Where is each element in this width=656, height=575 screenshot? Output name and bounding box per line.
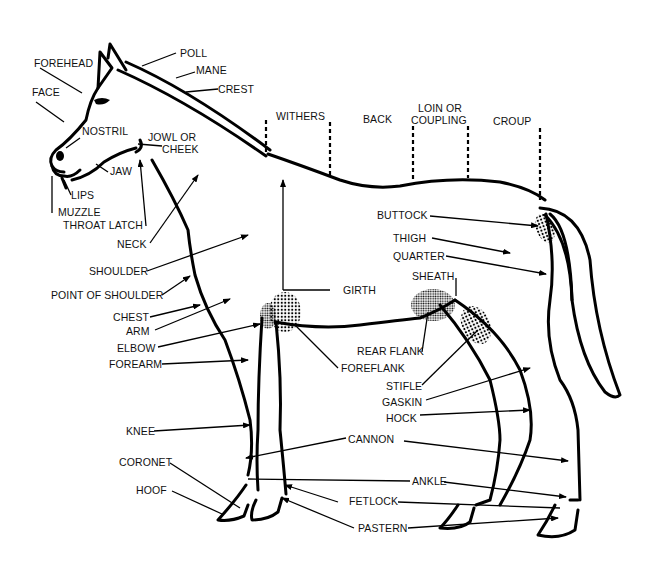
label-back: BACK — [363, 113, 392, 125]
label-crest: CREST — [218, 83, 255, 95]
label-buttock: BUTTOCK — [377, 209, 428, 221]
label-point-of-shoulder: POINT OF SHOULDER — [51, 289, 164, 301]
label-jowl-line1: JOWL OR — [148, 131, 196, 143]
label-loin-line2: COUPLING — [411, 114, 467, 126]
label-mane: MANE — [196, 64, 227, 76]
label-neck: NECK — [117, 238, 147, 250]
label-forehead: FOREHEAD — [34, 57, 93, 69]
label-thigh: THIGH — [393, 232, 426, 244]
label-cannon: CANNON — [348, 433, 394, 445]
label-elbow: ELBOW — [117, 342, 155, 354]
label-girth: GIRTH — [343, 284, 376, 296]
label-lips: LIPS — [71, 189, 94, 201]
label-pastern: PASTERN — [358, 522, 408, 534]
label-coronet: CORONET — [119, 456, 173, 468]
label-hoof: HOOF — [136, 484, 167, 496]
label-sheath: SHEATH — [412, 270, 454, 282]
label-poll: POLL — [180, 47, 207, 59]
label-throat-latch: THROAT LATCH — [63, 219, 143, 231]
topline-dividers — [266, 120, 540, 200]
label-loin-line1: LOIN OR — [418, 102, 462, 114]
label-hock: HOCK — [386, 412, 417, 424]
label-gaskin: GASKIN — [382, 396, 422, 408]
label-withers: WITHERS — [276, 110, 325, 122]
label-ankle: ANKLE — [412, 475, 447, 487]
label-fetlock: FETLOCK — [349, 495, 398, 507]
label-knee: KNEE — [126, 425, 155, 437]
label-jaw: JAW — [110, 165, 132, 177]
label-arm: ARM — [126, 325, 150, 337]
horse-diagram: FOREHEAD POLL MANE CREST FACE NOSTRIL JO… — [0, 0, 656, 575]
label-shoulder: SHOULDER — [89, 265, 148, 277]
label-quarter: QUARTER — [393, 250, 445, 262]
label-nostril: NOSTRIL — [82, 125, 128, 137]
label-jowl-line2: CHEEK — [162, 143, 199, 155]
label-rear-flank: REAR FLANK — [357, 345, 424, 357]
label-chest: CHEST — [113, 311, 150, 323]
label-forearm: FOREARM — [109, 358, 162, 370]
label-face: FACE — [32, 86, 60, 98]
label-foreflank: FOREFLANK — [341, 362, 405, 374]
label-stifle: STIFLE — [386, 380, 422, 392]
label-muzzle: MUZZLE — [58, 206, 101, 218]
label-croup: CROUP — [493, 115, 531, 127]
